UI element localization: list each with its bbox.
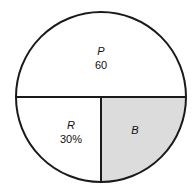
slice-value-p: 60 (95, 59, 107, 71)
pie-chart-svg: P 60 R 30% B (0, 0, 196, 196)
pie-slice-b-fill (101, 97, 186, 182)
pie-diagram-figure: P 60 R 30% B (0, 0, 196, 196)
slice-value-r: 30% (60, 133, 82, 145)
slice-label-r: R (67, 119, 75, 131)
slice-label-p: P (97, 45, 105, 57)
slice-label-b: B (131, 124, 138, 136)
